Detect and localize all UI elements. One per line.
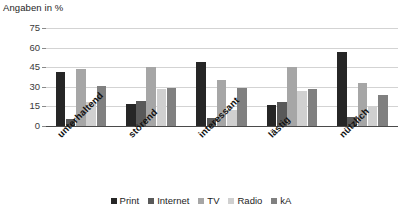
bar xyxy=(196,62,206,126)
legend-item[interactable]: kA xyxy=(271,196,291,206)
bar xyxy=(237,88,247,126)
y-tick-label: 45 xyxy=(4,62,40,72)
legend-swatch-icon xyxy=(228,198,234,204)
bar xyxy=(56,72,66,126)
legend-swatch-icon xyxy=(111,198,117,204)
bar-chart: Angaben in % 01530456075 unterhaltendstö… xyxy=(0,0,402,220)
y-tick-label: 75 xyxy=(4,23,40,33)
legend-swatch-icon xyxy=(198,198,204,204)
bar xyxy=(378,95,388,126)
bar xyxy=(337,52,347,126)
legend-item[interactable]: Internet xyxy=(148,196,189,206)
legend-label: Internet xyxy=(157,196,189,206)
legend-label: Radio xyxy=(237,196,262,206)
legend-label: kA xyxy=(280,196,291,206)
bar xyxy=(308,89,318,126)
legend-label: TV xyxy=(207,196,219,206)
bar xyxy=(157,89,167,126)
y-tick-label: 30 xyxy=(4,82,40,92)
y-tick-label: 60 xyxy=(4,43,40,53)
bar xyxy=(297,91,307,126)
legend-item[interactable]: TV xyxy=(198,196,219,206)
y-tick-label: 0 xyxy=(4,121,40,131)
chart-legend: PrintInternetTVRadiokA xyxy=(0,196,402,206)
legend-item[interactable]: Radio xyxy=(228,196,262,206)
y-axis-title: Angaben in % xyxy=(3,2,63,13)
bar-group xyxy=(257,28,327,126)
y-tick-label: 15 xyxy=(4,102,40,112)
legend-swatch-icon xyxy=(148,198,154,204)
legend-item[interactable]: Print xyxy=(111,196,140,206)
bar xyxy=(167,88,177,126)
legend-label: Print xyxy=(120,196,140,206)
bar xyxy=(368,106,378,126)
legend-swatch-icon xyxy=(271,198,277,204)
